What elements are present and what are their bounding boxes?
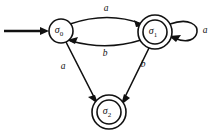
transition-sigma0-sigma2-path: [66, 42, 95, 99]
state-sigma1-subscript: 1: [154, 31, 158, 39]
state-sigma2-subscript: 2: [108, 111, 112, 119]
transition-label-a-left: a: [61, 61, 66, 71]
transition-sigma0-sigma1-path: [70, 18, 142, 25]
transition-label-a-top: a: [104, 3, 109, 13]
state-sigma2[interactable]: σ2: [92, 95, 126, 129]
state-sigma0-subscript: 0: [60, 30, 64, 38]
transition-label-a-self-loop: a: [203, 25, 208, 35]
transition-sigma0-sigma1: a: [70, 3, 145, 27]
automaton-diagram: a b a b a σ0: [0, 0, 216, 130]
transition-sigma1-sigma2: b: [121, 48, 149, 105]
state-sigma0[interactable]: σ0: [49, 19, 73, 43]
transition-label-b-bottom: b: [103, 48, 108, 58]
transition-sigma1-sigma0: b: [67, 37, 141, 58]
transition-sigma0-sigma2: a: [61, 42, 98, 104]
automaton-canvas: a b a b a σ0: [0, 0, 216, 130]
transition-label-b-right: b: [141, 59, 146, 69]
start-arrow-head: [40, 27, 49, 35]
transition-sigma1-sigma0-path: [71, 40, 141, 46]
state-sigma1[interactable]: σ1: [138, 15, 172, 49]
start-arrow: [4, 27, 49, 35]
transition-sigma1-sigma2-path: [124, 48, 149, 99]
transition-sigma1-self-loop: a: [169, 21, 208, 42]
